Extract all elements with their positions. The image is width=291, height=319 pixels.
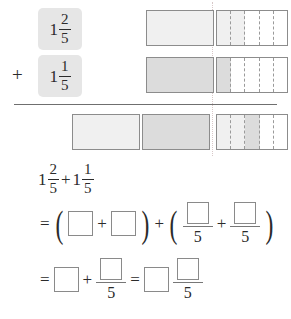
addend-1-whole-bar: [146, 10, 214, 46]
line3-plus: +: [81, 271, 95, 288]
addend-1-fifths-bar: [216, 10, 288, 46]
line2-denominator-2: 5: [241, 229, 249, 246]
answer-fraction-2: 5: [230, 202, 260, 246]
line1-term1-numerator: 2: [48, 162, 60, 178]
line2-paren-open: (: [54, 205, 63, 243]
addend-2-fifths-bar: [216, 57, 288, 93]
line1-term2-whole: 1: [73, 171, 83, 188]
fifth-cell: [245, 11, 259, 45]
sum-horizontal-rule: [14, 104, 277, 105]
fifth-cell: [217, 11, 231, 45]
fifth-cell: [231, 11, 245, 45]
fifth-cell: [217, 115, 231, 149]
equation-work-area: 1 2 5 + 1 1 5 = ( + ) + ( 5 + 5: [0, 158, 291, 319]
answer-blank-numerator-2[interactable]: [234, 202, 256, 224]
addend-1-fraction: 2 5: [59, 12, 71, 47]
fifth-cell: [231, 115, 245, 149]
line1-term2-fraction: 1 5: [82, 162, 94, 197]
addend-row-2: + 1 1 5: [0, 53, 291, 100]
answer-blank-whole-2[interactable]: [111, 211, 136, 236]
addend-1-whole: 1: [50, 21, 60, 38]
fifth-cell: [245, 58, 259, 92]
addend-1-denominator: 5: [59, 31, 71, 47]
fifth-cell: [260, 11, 274, 45]
fifth-cell: [274, 58, 287, 92]
fifth-cell: [260, 115, 274, 149]
sum-whole-bar-2: [142, 114, 210, 150]
line1-plus: +: [59, 171, 73, 188]
final-answer-numerator-blank[interactable]: [177, 258, 199, 280]
fifth-cell: [274, 115, 287, 149]
addend-2-whole: 1: [50, 68, 60, 85]
equation-line-1: 1 2 5 + 1 1 5: [38, 162, 94, 197]
fraction-bar: [230, 226, 260, 227]
final-answer-fraction: 5: [173, 258, 203, 302]
line1-term2-numerator: 1: [82, 162, 94, 178]
line2-plus-3: +: [215, 215, 229, 232]
addend-2-numerator: 1: [59, 59, 71, 75]
answer-sum-fraction: 5: [96, 258, 126, 302]
final-answer-denominator: 5: [184, 285, 192, 302]
fraction-bar-diagram: 1 2 5 + 1 1 5: [0, 0, 291, 158]
sum-fifths-bar: [216, 114, 288, 150]
answer-blank-sum-whole[interactable]: [54, 267, 79, 292]
final-answer-mixed-number: 5: [142, 258, 205, 302]
line2-equals: =: [38, 215, 52, 232]
line2-plus-1: +: [95, 215, 109, 232]
line3-equals-2: =: [128, 271, 142, 288]
line2-denominator-1: 5: [194, 229, 202, 246]
line1-term2-denominator: 5: [82, 181, 94, 197]
answer-blank-sum-numerator[interactable]: [100, 258, 122, 280]
addend-2-denominator: 5: [59, 78, 71, 94]
line2-paren-close: ): [141, 205, 150, 243]
addend-row-1: 1 2 5: [0, 6, 291, 53]
equation-line-3: = + 5 = 5: [38, 258, 205, 302]
addend-1-label: 1 2 5: [38, 8, 82, 50]
line1-term1-whole: 1: [38, 171, 48, 188]
line2-plus-2: +: [153, 215, 167, 232]
fifth-cell: [274, 11, 287, 45]
sum-row: [0, 110, 291, 156]
equation-line-2: = ( + ) + ( 5 + 5 ): [38, 202, 277, 246]
answer-fraction-1: 5: [183, 202, 213, 246]
sum-whole-bar-1: [72, 114, 140, 150]
fraction-bar: [96, 282, 126, 283]
fifth-cell: [245, 115, 259, 149]
line2-paren-close-2: ): [265, 205, 274, 243]
final-answer-whole-blank[interactable]: [144, 267, 169, 292]
line3-denominator: 5: [107, 285, 115, 302]
addend-2-whole-bar: [146, 57, 214, 93]
plus-sign: +: [12, 65, 23, 84]
fifth-cell: [217, 58, 231, 92]
answer-blank-numerator-1[interactable]: [187, 202, 209, 224]
fifth-cell: [260, 58, 274, 92]
line1-term1-fraction: 2 5: [48, 162, 60, 197]
line2-paren-open-2: (: [169, 205, 178, 243]
fifth-cell: [231, 58, 245, 92]
answer-blank-whole-1[interactable]: [68, 211, 93, 236]
addend-2-fraction: 1 5: [59, 59, 71, 94]
line3-equals-1: =: [38, 271, 52, 288]
fraction-bar: [173, 282, 203, 283]
line1-term1-denominator: 5: [48, 181, 60, 197]
fraction-bar: [183, 226, 213, 227]
addend-2-label: 1 1 5: [38, 55, 82, 97]
addend-1-numerator: 2: [59, 12, 71, 28]
